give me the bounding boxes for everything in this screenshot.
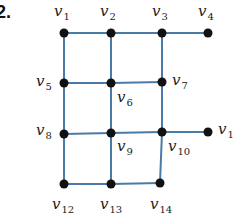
vertex-v9 [107, 129, 116, 138]
nodes-group [60, 29, 213, 189]
graph-svg [0, 0, 234, 224]
vertex-label-v14: v14 [150, 197, 172, 215]
vertex-label-v6: v6 [117, 90, 133, 108]
vertex-v8 [60, 130, 69, 139]
vertex-v2 [107, 29, 116, 38]
vertex-label-v12: v12 [52, 197, 74, 215]
edge-v13-v14 [111, 183, 160, 184]
vertex-label-v10: v10 [168, 139, 190, 157]
edge-v10-v14 [160, 132, 162, 183]
vertex-v13 [107, 180, 116, 189]
edge-v9-v10 [111, 132, 162, 133]
vertex-label-v3: v3 [152, 4, 168, 22]
vertex-label-v4: v4 [198, 4, 214, 22]
vertex-v1 [60, 29, 69, 38]
vertex-label-v1: v1 [54, 4, 70, 22]
vertex-v3 [158, 29, 167, 38]
vertex-label-v5: v5 [36, 74, 52, 92]
vertex-label-v8: v8 [36, 123, 52, 141]
vertex-v12 [60, 180, 69, 189]
edge-v6-v7 [111, 82, 162, 83]
vertex-v6 [107, 79, 116, 88]
edges-group [64, 33, 208, 184]
vertex-v5 [60, 79, 69, 88]
vertex-label-v7: v7 [172, 73, 188, 91]
vertex-v14 [156, 179, 165, 188]
edge-v8-v9 [64, 133, 111, 134]
vertex-label-v11: v1 [218, 122, 234, 140]
vertex-v7 [158, 78, 167, 87]
vertex-v4 [204, 29, 213, 38]
vertex-label-v9: v9 [117, 139, 133, 157]
vertex-v10 [158, 128, 167, 137]
vertex-label-v2: v2 [100, 4, 116, 22]
graph-diagram: 2. v1v2v3v4v5v6v7v8v9v10v1v12v13v14 [0, 0, 234, 224]
vertex-label-v13: v13 [100, 197, 122, 215]
vertex-v11 [204, 128, 213, 137]
